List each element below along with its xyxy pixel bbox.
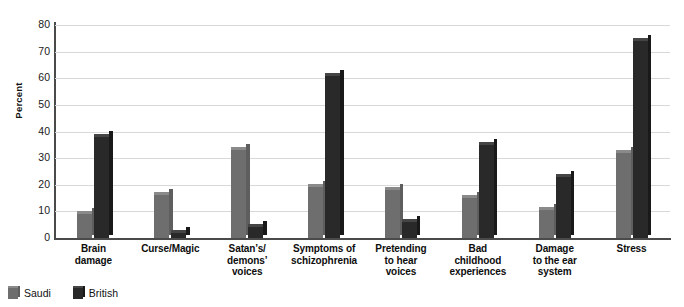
x-axis-category-label: Stress (593, 243, 670, 255)
legend-swatch-top (73, 286, 83, 288)
bar-side (417, 216, 421, 235)
x-axis-category-label-line: Stress (593, 243, 670, 255)
x-axis-category-label-line: Satan’s/ (209, 243, 286, 255)
bar-top (402, 219, 417, 222)
bar-top (154, 192, 169, 195)
x-axis-category-label-line: schizophrenia (286, 255, 363, 267)
x-axis-category-label: Pretendingto hearvoices (363, 243, 440, 278)
bar-top (231, 147, 246, 150)
x-axis-category-label-line: Bad (439, 243, 516, 255)
bar-saudi (539, 210, 554, 238)
legend-swatch-side (83, 286, 85, 297)
x-axis-category-label-line: childhood (439, 255, 516, 267)
bar-top (633, 38, 648, 41)
legend-swatch-top (8, 286, 18, 288)
bar-saudi (462, 198, 477, 238)
y-axis-tick-label: 20 (24, 178, 50, 190)
bar-british (94, 137, 109, 238)
bar-face (154, 195, 169, 238)
bar-side (109, 131, 113, 235)
bar-face (462, 198, 477, 238)
x-axis-line (54, 238, 671, 240)
bar-top (325, 73, 340, 76)
x-axis-category-label: Badchildhoodexperiences (439, 243, 516, 278)
bar-top (616, 150, 631, 153)
bar-face (385, 190, 400, 238)
x-axis-category-label-line: Brain (55, 243, 132, 255)
y-axis-tick-label: 60 (24, 71, 50, 83)
x-axis-category-label-line: Damage (516, 243, 593, 255)
bar-british (325, 76, 340, 238)
legend-label: Saudi (24, 287, 51, 299)
y-axis-tick-label: 80 (24, 18, 50, 30)
plot-area (55, 25, 670, 238)
legend-swatch-side (18, 286, 20, 297)
bar-group (286, 25, 363, 238)
bar-top (539, 207, 554, 210)
bar-saudi (616, 153, 631, 238)
bar-top (556, 174, 571, 177)
bar-face (402, 222, 417, 238)
x-axis-category-label-line: system (516, 266, 593, 278)
y-axis-tick-label: 50 (24, 98, 50, 110)
y-axis-tick-label: 0 (24, 231, 50, 243)
x-axis-category-label-line: Symptoms of (286, 243, 363, 255)
x-axis-category-label: Satan’s/demons’voices (209, 243, 286, 278)
bar-british (171, 233, 186, 238)
x-axis-category-label: Braindamage (55, 243, 132, 266)
legend-swatch-icon (8, 288, 18, 299)
bar-top (479, 142, 494, 145)
bar-side (494, 139, 498, 235)
bar-top (171, 230, 186, 233)
legend-item[interactable]: British (73, 287, 118, 299)
bar-side (571, 171, 575, 235)
x-axis-category-label: Curse/Magic (132, 243, 209, 255)
y-axis-tick-label: 70 (24, 45, 50, 57)
bar-saudi (231, 150, 246, 238)
bar-group (132, 25, 209, 238)
bar-face (77, 214, 92, 238)
bar-face (633, 41, 648, 238)
bar-saudi (154, 195, 169, 238)
bar-face (308, 187, 323, 238)
bar-side (648, 35, 652, 235)
bar-top (248, 224, 263, 227)
bar-side (246, 144, 250, 235)
bar-group (363, 25, 440, 238)
bar-top (94, 134, 109, 137)
bar-saudi (308, 187, 323, 238)
bar-face (248, 227, 263, 238)
x-axis-category-label-line: experiences (439, 266, 516, 278)
bar-chart: Percent 01020304050607080 BraindamageCur… (0, 0, 684, 307)
bar-side (169, 189, 173, 235)
bar-group (593, 25, 670, 238)
bar-british (556, 177, 571, 238)
x-axis-category-label-line: to hear (363, 255, 440, 267)
bar-group (209, 25, 286, 238)
bar-face (539, 210, 554, 238)
bar-group (516, 25, 593, 238)
x-axis-category-label: Damageto the earsystem (516, 243, 593, 278)
bar-face (616, 153, 631, 238)
bar-face (94, 137, 109, 238)
bar-face (556, 177, 571, 238)
x-axis-category-label-line: voices (363, 266, 440, 278)
x-axis-category-label-line: damage (55, 255, 132, 267)
bar-group (55, 25, 132, 238)
bar-british (633, 41, 648, 238)
x-axis-category-label-line: voices (209, 266, 286, 278)
y-axis-title: Percent (13, 66, 24, 136)
bar-side (186, 227, 190, 235)
bar-side (340, 70, 344, 235)
y-axis-tick-label: 10 (24, 204, 50, 216)
bar-top (77, 211, 92, 214)
legend-item[interactable]: Saudi (8, 287, 51, 299)
x-axis-category-label-line: demons’ (209, 255, 286, 267)
bar-british (402, 222, 417, 238)
bar-top (308, 184, 323, 187)
bar-face (171, 233, 186, 238)
bar-british (248, 227, 263, 238)
bar-side (263, 221, 267, 235)
x-axis-category-label: Symptoms ofschizophrenia (286, 243, 363, 266)
bar-face (479, 145, 494, 238)
